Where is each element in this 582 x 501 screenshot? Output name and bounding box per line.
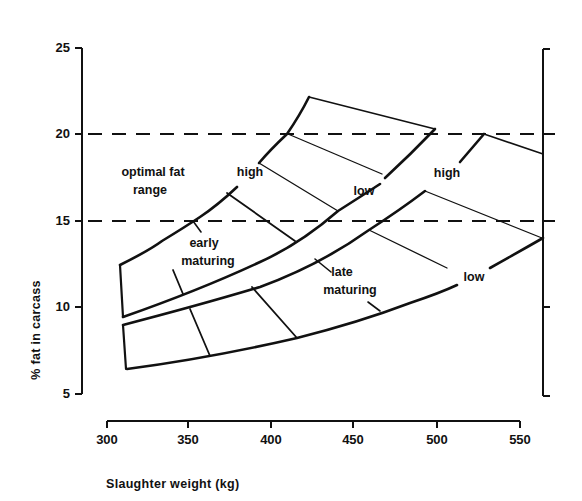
early-maturing-label-2: maturing bbox=[181, 254, 234, 268]
y-axis-title: % fat in carcass bbox=[29, 280, 43, 379]
x-tick-500: 500 bbox=[426, 432, 448, 447]
x-tick-350: 350 bbox=[177, 432, 199, 447]
y-axis-left bbox=[75, 48, 82, 394]
early-maturing-label-1: early bbox=[189, 236, 218, 250]
y-tick-labels: 25 20 15 10 5 bbox=[56, 40, 70, 401]
early-maturing-band bbox=[120, 97, 435, 317]
late-low-label: low bbox=[464, 270, 485, 284]
late-high-label: high bbox=[434, 166, 460, 180]
y-tick-15: 15 bbox=[56, 213, 70, 228]
x-tick-450: 450 bbox=[342, 432, 364, 447]
early-high-label: high bbox=[237, 165, 263, 179]
fat-vs-weight-chart: 25 20 15 10 5 % fat in carcass 300 350 4… bbox=[0, 0, 582, 501]
early-low-label: low bbox=[354, 184, 375, 198]
late-maturing-label-1: late bbox=[331, 265, 353, 279]
late-maturing-label-2: maturing bbox=[323, 283, 376, 297]
y-tick-5: 5 bbox=[63, 386, 70, 401]
x-axis bbox=[107, 421, 520, 428]
optimal-range-label-1: optimal fat bbox=[121, 165, 185, 179]
x-tick-300: 300 bbox=[96, 432, 118, 447]
x-tick-400: 400 bbox=[260, 432, 282, 447]
y-tick-25: 25 bbox=[56, 40, 70, 55]
optimal-range-label-2: range bbox=[133, 183, 167, 197]
y-axis-right bbox=[543, 49, 550, 396]
y-tick-10: 10 bbox=[56, 299, 70, 314]
y-tick-20: 20 bbox=[56, 126, 70, 141]
x-axis-title: Slaughter weight (kg) bbox=[106, 477, 239, 491]
x-tick-550: 550 bbox=[509, 432, 531, 447]
late-maturing-band bbox=[123, 134, 543, 369]
x-tick-labels: 300 350 400 450 500 550 bbox=[96, 432, 531, 447]
